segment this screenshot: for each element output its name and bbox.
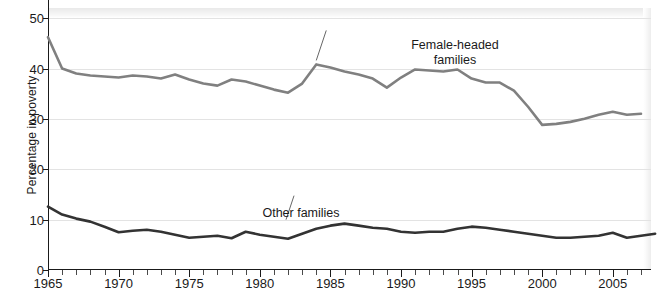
y-tick-label: 50 xyxy=(18,12,44,25)
x-tick-label: 2005 xyxy=(598,276,627,291)
x-tickmark-minor xyxy=(345,270,346,275)
annotation-female-headed-families: Female-headed families xyxy=(388,22,522,69)
x-tickmark-minor xyxy=(232,270,233,275)
x-tickmark-minor xyxy=(203,270,204,275)
y-tick-label: 20 xyxy=(18,163,44,176)
x-tickmark-minor xyxy=(486,270,487,275)
x-tick-label: 1985 xyxy=(316,276,345,291)
y-tick-label: 10 xyxy=(18,214,44,227)
annotation-other-families: Other families xyxy=(236,190,366,221)
x-tickmark-minor xyxy=(373,270,374,275)
x-tickmark-minor xyxy=(274,270,275,275)
x-tickmark-minor xyxy=(105,270,106,275)
x-tickmark-minor xyxy=(570,270,571,275)
x-tickmark-minor xyxy=(217,270,218,275)
x-tickmark-minor xyxy=(90,270,91,275)
x-tick-label: 1995 xyxy=(457,276,486,291)
x-tickmark-minor xyxy=(387,270,388,275)
x-tick-label: 2000 xyxy=(528,276,557,291)
poverty-line-chart: Percentage in poverty 01020304050 196519… xyxy=(0,0,659,294)
x-tickmark-minor xyxy=(641,270,642,275)
y-tick-label: 40 xyxy=(18,63,44,76)
x-tickmark-minor xyxy=(500,270,501,275)
x-tickmark-minor xyxy=(288,270,289,275)
x-tickmark-minor xyxy=(429,270,430,275)
y-tick-label: 30 xyxy=(18,113,44,126)
y-tickmark xyxy=(43,270,48,271)
x-tickmark-minor xyxy=(133,270,134,275)
x-tickmark-minor xyxy=(76,270,77,275)
x-tickmark-minor xyxy=(62,270,63,275)
x-tickmark-minor xyxy=(161,270,162,275)
x-tickmark-minor xyxy=(599,270,600,275)
series-lines xyxy=(48,8,651,270)
x-tickmark-minor xyxy=(585,270,586,275)
x-tick-label: 1970 xyxy=(104,276,133,291)
x-tickmark-minor xyxy=(528,270,529,275)
x-tickmark-minor xyxy=(458,270,459,275)
y-axis-tick-labels: 01020304050 xyxy=(18,0,44,294)
x-tickmark-minor xyxy=(302,270,303,275)
x-tickmark-minor xyxy=(316,270,317,275)
x-tickmark-minor xyxy=(175,270,176,275)
annotation-other-families-text: Other families xyxy=(262,206,339,220)
x-tickmark-minor xyxy=(556,270,557,275)
x-tick-label: 1965 xyxy=(34,276,63,291)
x-tickmark-minor xyxy=(415,270,416,275)
x-tickmark-minor xyxy=(443,270,444,275)
leader-line-female-headed xyxy=(316,30,326,60)
x-tick-label: 1990 xyxy=(387,276,416,291)
x-tick-label: 1980 xyxy=(245,276,274,291)
x-tick-label: 1975 xyxy=(175,276,204,291)
x-tickmark-minor xyxy=(359,270,360,275)
x-tickmark-minor xyxy=(147,270,148,275)
series-line xyxy=(48,37,641,125)
x-tickmark-minor xyxy=(627,270,628,275)
x-tickmark-minor xyxy=(246,270,247,275)
plot-area xyxy=(48,8,651,270)
x-tickmark-minor xyxy=(514,270,515,275)
annotation-female-headed-families-text: Female-headed families xyxy=(411,38,499,68)
